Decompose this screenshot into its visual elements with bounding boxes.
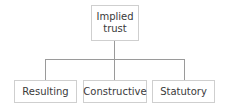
connector-left-down <box>45 59 46 80</box>
connector-middle-down <box>114 59 115 80</box>
connector-horizontal <box>45 59 185 60</box>
root-label-line1: Implied <box>96 11 133 23</box>
connector-root-down <box>114 41 115 60</box>
child-node-constructive: Constructive <box>83 80 147 103</box>
child-node-statutory: Statutory <box>152 80 215 103</box>
child-label-resulting: Resulting <box>22 86 68 98</box>
child-label-statutory: Statutory <box>160 86 207 98</box>
child-label-constructive: Constructive <box>83 86 146 98</box>
connector-right-down <box>184 59 185 80</box>
root-label-line2: trust <box>103 23 127 35</box>
root-node-implied-trust: Implied trust <box>91 5 139 41</box>
child-node-resulting: Resulting <box>14 80 77 103</box>
